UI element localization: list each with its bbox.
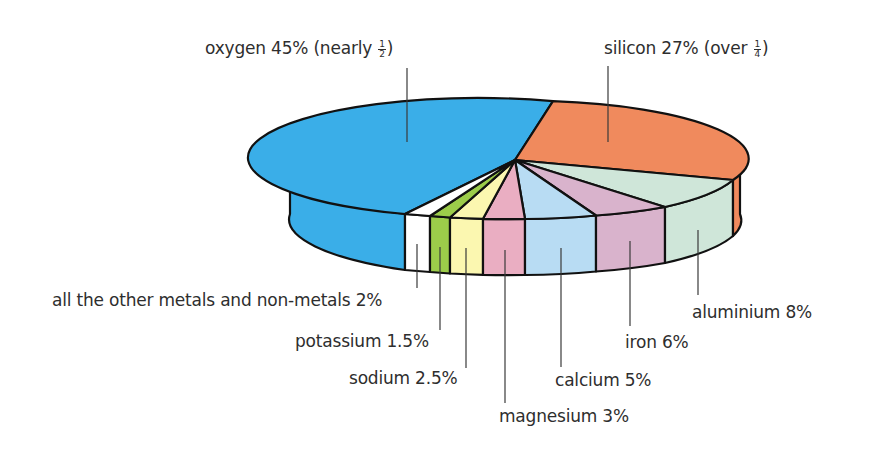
fraction-half: 12	[378, 40, 386, 59]
label-silicon-text: silicon 27% (over	[604, 38, 753, 58]
label-oxygen: oxygen 45% (nearly 12)	[205, 38, 393, 59]
label-other: all the other metals and non-metals 2%	[52, 290, 382, 310]
label-silicon-close: )	[762, 38, 768, 58]
label-oxygen-close: )	[387, 38, 393, 58]
slice-side-magnesium	[483, 219, 525, 275]
fraction-denominator: 2	[378, 50, 386, 59]
fraction-denominator: 4	[754, 50, 762, 59]
fraction-numerator: 1	[378, 40, 386, 50]
label-aluminium: aluminium 8%	[692, 302, 812, 322]
label-oxygen-text: oxygen 45% (nearly	[205, 38, 377, 58]
label-iron: iron 6%	[625, 332, 689, 352]
fraction-numerator: 1	[754, 40, 762, 50]
label-calcium: calcium 5%	[555, 370, 651, 390]
label-potassium: potassium 1.5%	[295, 331, 429, 351]
label-silicon: silicon 27% (over 14)	[604, 38, 768, 59]
label-magnesium: magnesium 3%	[499, 406, 629, 426]
label-sodium: sodium 2.5%	[349, 368, 458, 388]
fraction-quarter: 14	[754, 40, 762, 59]
